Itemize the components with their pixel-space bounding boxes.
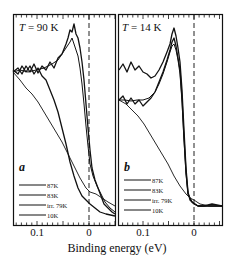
panel-b-legend: 87K 83K irr. 79K 10K	[124, 177, 173, 214]
panel-b-curves	[119, 28, 222, 206]
curve-b-83K	[119, 38, 222, 206]
legend-a-10K: 10K	[47, 212, 59, 219]
panel-b-tick-0.1: 0.1	[136, 226, 150, 238]
curve-b-87K	[119, 28, 222, 206]
legend-a-87K: 87K	[47, 182, 59, 189]
legend-a-83K: 83K	[47, 192, 59, 199]
legend-b-irr79K: irr. 79K	[152, 197, 173, 204]
panel-a-letter: a	[19, 160, 25, 174]
panel-a-legend: 87K 83K irr. 79K 10K	[19, 182, 68, 219]
panel-a-tick-0.1: 0.1	[30, 226, 44, 238]
legend-b-10K: 10K	[152, 207, 164, 214]
legend-a-irr79K: irr. 79K	[47, 202, 68, 209]
panel-a-title: T = 90 K	[19, 21, 59, 33]
legend-b-87K: 87K	[152, 177, 164, 184]
panel-b-tick-0: 0	[191, 226, 197, 238]
legend-b-83K: 83K	[152, 187, 164, 194]
curve-a-10K	[13, 72, 115, 206]
figure: T = 90 K T = 14 K a b 87K 83K irr. 79K 1…	[0, 0, 233, 266]
panel-b-letter: b	[124, 160, 130, 174]
panel-a-curves	[13, 24, 115, 216]
panel-a-tick-0: 0	[86, 226, 92, 238]
x-axis-label: Binding energy (eV)	[67, 241, 166, 255]
panel-b-title: T = 14 K	[122, 21, 162, 33]
curve-a-83K	[13, 38, 115, 212]
